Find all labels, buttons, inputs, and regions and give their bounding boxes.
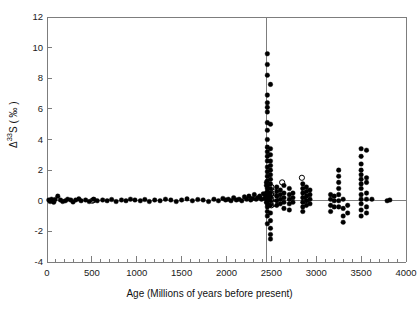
data-point-filled <box>336 174 341 179</box>
y-tick-label--4: -4 <box>13 256 43 267</box>
data-point-filled <box>143 197 148 202</box>
data-point-filled <box>265 73 270 78</box>
x-tick-label-1500: 1500 <box>157 267 207 278</box>
data-point-filled <box>190 198 195 203</box>
data-point-filled <box>345 203 350 208</box>
data-point-filled <box>268 153 273 158</box>
data-point-filled <box>138 198 143 203</box>
data-point-filled <box>359 154 364 159</box>
data-point-filled <box>341 206 346 211</box>
data-point-filled <box>359 186 364 191</box>
data-point-filled <box>268 168 273 173</box>
data-point-filled <box>268 226 273 231</box>
data-point-filled <box>109 197 114 202</box>
data-point-filled <box>206 199 211 204</box>
data-point-filled <box>388 198 393 203</box>
x-tick-label-1000: 1000 <box>112 267 162 278</box>
data-point-filled <box>179 198 184 203</box>
data-point-filled <box>265 51 270 56</box>
data-point-filled <box>128 197 133 202</box>
data-point-filled <box>268 211 273 216</box>
data-point-filled <box>359 182 364 187</box>
data-point-filled <box>212 197 217 202</box>
data-point-filled <box>124 198 129 203</box>
data-point-filled <box>287 208 292 213</box>
y-axis-element: S <box>8 126 19 133</box>
data-point-filled <box>158 198 163 203</box>
data-point-filled <box>201 198 206 203</box>
data-point-filled <box>265 128 270 133</box>
data-point-filled <box>336 186 341 191</box>
data-point-filled <box>265 93 270 98</box>
data-point-filled <box>152 198 157 203</box>
data-point-filled <box>364 180 369 185</box>
data-point-filled <box>100 198 105 203</box>
data-point-filled <box>364 205 369 210</box>
data-point-filled <box>169 198 174 203</box>
data-point-filled <box>336 180 341 185</box>
data-point-filled <box>364 197 369 202</box>
y-tick-label-8: 8 <box>13 72 43 83</box>
data-point-filled <box>265 100 270 105</box>
data-point-filled <box>282 191 287 196</box>
x-tick-label-2000: 2000 <box>202 267 252 278</box>
data-point-filled <box>341 197 346 202</box>
data-point-filled <box>332 198 337 203</box>
data-point-filled <box>332 194 337 199</box>
data-point-filled <box>163 197 168 202</box>
data-point-filled <box>268 232 273 237</box>
data-point-filled <box>265 110 270 115</box>
y-tick-label-4: 4 <box>13 134 43 145</box>
figure-scatter-delta33s-vs-age: Age (Millions of years before present) Δ… <box>0 0 419 312</box>
data-point-filled <box>364 175 369 180</box>
x-tick-label-500: 500 <box>67 267 117 278</box>
data-point-filled <box>359 202 364 207</box>
data-point-filled <box>359 177 364 182</box>
y-tick-label-0: 0 <box>13 195 43 206</box>
data-point-filled <box>268 237 273 242</box>
data-point-filled <box>79 198 84 203</box>
data-point-filled <box>268 172 273 177</box>
data-point-filled <box>174 199 179 204</box>
y-tick-label-12: 12 <box>13 11 43 22</box>
x-axis-title: Age (Millions of years before present) <box>0 288 419 299</box>
data-point-filled <box>268 122 273 127</box>
data-point-filled <box>359 208 364 213</box>
data-point-filled <box>300 209 305 214</box>
data-point-filled <box>268 82 273 87</box>
data-point-filled <box>359 214 364 219</box>
data-point-filled <box>268 159 273 164</box>
data-point-filled <box>359 197 364 202</box>
data-point-filled <box>341 214 346 219</box>
data-point-filled <box>359 162 364 167</box>
data-point-filled <box>359 146 364 151</box>
data-point-filled <box>328 209 333 214</box>
data-point-filled <box>291 191 296 196</box>
x-tick-label-2500: 2500 <box>246 267 296 278</box>
data-point-filled <box>268 163 273 168</box>
x-tick-label-3000: 3000 <box>291 267 341 278</box>
data-point-filled <box>264 195 269 200</box>
x-tick-label-3500: 3500 <box>336 267 386 278</box>
data-point-filled <box>287 186 292 191</box>
data-point-filled <box>336 198 341 203</box>
data-point-filled <box>345 211 350 216</box>
data-point-filled <box>268 146 273 151</box>
data-point-filled <box>185 197 190 202</box>
data-point-filled <box>282 206 287 211</box>
data-point-filled <box>265 105 270 110</box>
data-point-filled <box>195 197 200 202</box>
data-point-filled <box>332 205 337 210</box>
y-tick-label--2: -2 <box>13 225 43 236</box>
data-point-filled <box>336 192 341 197</box>
y-tick-label-2: 2 <box>13 164 43 175</box>
data-point-filled <box>341 220 346 225</box>
data-point-filled <box>265 137 270 142</box>
data-point-filled <box>364 211 369 216</box>
data-point-filled <box>268 177 273 182</box>
data-point-filled <box>370 197 375 202</box>
data-point-filled <box>119 198 124 203</box>
data-point-filled <box>364 148 369 153</box>
x-tick-label-0: 0 <box>22 267 72 278</box>
data-point-filled <box>359 172 364 177</box>
